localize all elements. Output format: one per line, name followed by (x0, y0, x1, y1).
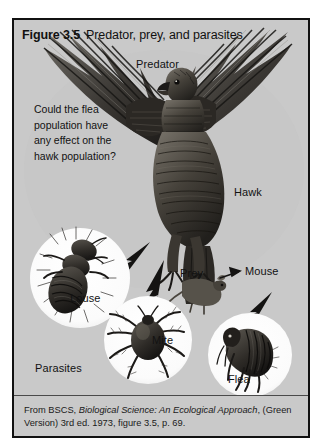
figure-title-bar: Figure 3.5Predator, prey, and parasites (22, 25, 304, 45)
question-text-block: Could the flea population have any effec… (34, 102, 154, 164)
label-mouse: Mouse (245, 265, 279, 277)
label-parasites: Parasites (35, 362, 82, 374)
mite-circle (104, 296, 192, 384)
label-prey: Prey (180, 267, 203, 279)
caption-area: From BSCS, Biological Science: An Ecolog… (14, 396, 308, 436)
label-louse: Louse (70, 292, 100, 304)
source-citation: From BSCS, Biological Science: An Ecolog… (24, 404, 298, 429)
question-line-3: any effect on the (34, 133, 154, 149)
label-hawk: Hawk (234, 186, 262, 198)
flea-circle (208, 313, 292, 396)
citation-prefix: From BSCS, (24, 405, 79, 415)
label-flea: Flea (228, 373, 250, 385)
label-mite: Mite (152, 334, 173, 346)
question-line-2: population have (34, 118, 154, 134)
page-title: Predator, prey, and parasites (86, 28, 243, 42)
citation-book-title: Biological Science: An Ecological Approa… (79, 405, 258, 415)
label-predator: Predator (136, 58, 179, 70)
figure-number: Figure 3.5 (22, 28, 80, 42)
question-line-1: Could the flea (34, 102, 154, 118)
question-line-4: hawk population? (34, 149, 154, 165)
figure-frame: Figure 3.5Predator, prey, and parasites (12, 18, 310, 438)
